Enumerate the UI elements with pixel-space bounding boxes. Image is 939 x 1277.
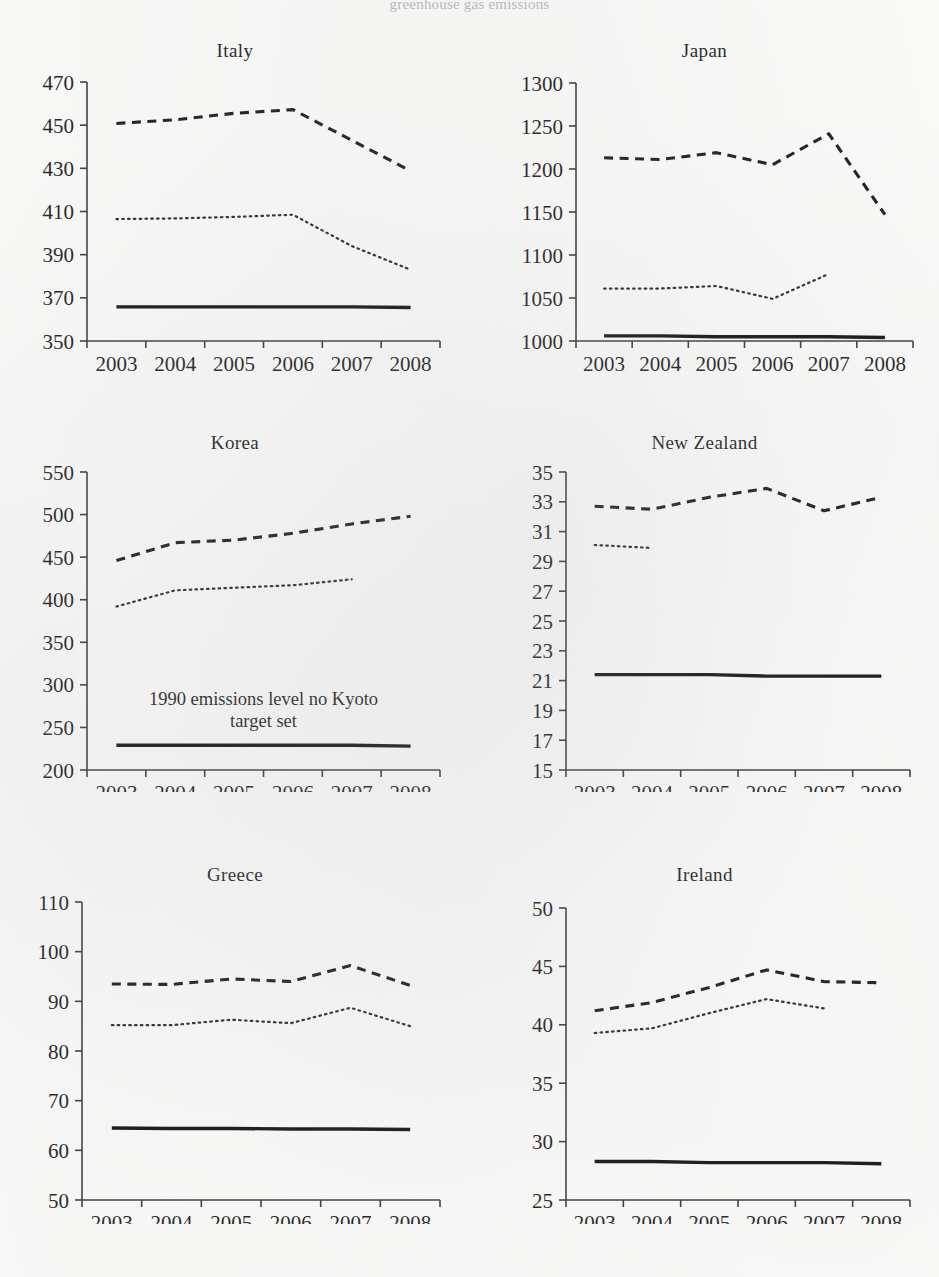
y-tick-label: 90 (48, 990, 69, 1014)
x-tick-label: 2008 (389, 1211, 431, 1224)
y-tick-label: 470 (43, 71, 75, 95)
x-tick-label: 2003 (91, 1211, 133, 1224)
series-solid-baseline (116, 307, 410, 308)
x-tick-label: 2003 (95, 781, 137, 792)
x-tick-label: 2007 (808, 352, 850, 376)
chart-panel-new-zealand: New Zealand15171921232527293133352003200… (470, 420, 939, 792)
series-solid-baseline (112, 1128, 410, 1129)
y-tick-label: 19 (532, 699, 553, 723)
y-tick-label: 50 (532, 897, 553, 921)
y-tick-label: 410 (43, 200, 75, 224)
series-dashed-line (112, 966, 410, 986)
plot-area: 3503703904104304504702003200420052006200… (0, 28, 470, 400)
x-tick-label: 2008 (864, 352, 906, 376)
series-dotted-line (604, 274, 829, 299)
y-tick-label: 1200 (521, 158, 563, 182)
plot-area: 1000105011001150120012501300200320042005… (470, 28, 939, 400)
y-tick-label: 250 (43, 716, 75, 740)
y-tick-label: 1300 (521, 72, 563, 96)
y-tick-label: 21 (532, 669, 553, 693)
y-tick-label: 80 (48, 1040, 69, 1064)
y-tick-label: 1150 (522, 201, 563, 225)
x-tick-label: 2006 (272, 352, 314, 376)
chart-panel-japan: Japan10001050110011501200125013002003200… (470, 28, 939, 400)
x-tick-label: 2007 (330, 1211, 372, 1224)
y-tick-label: 450 (43, 114, 75, 138)
x-tick-label: 2004 (639, 352, 682, 376)
x-tick-label: 2003 (95, 352, 137, 376)
plot-area: 2002503003504004505005502003200420052006… (0, 420, 470, 792)
y-tick-label: 1250 (521, 115, 563, 139)
y-tick-label: 29 (532, 550, 553, 574)
chart-panel-greece: Greece5060708090100110200320042005200620… (0, 852, 470, 1224)
series-solid-baseline (604, 336, 885, 338)
x-tick-label: 2005 (688, 781, 730, 792)
chart-panel-italy: Italy35037039041043045047020032004200520… (0, 28, 470, 400)
y-tick-label: 25 (532, 610, 553, 634)
plot-area: 5060708090100110200320042005200620072008 (0, 852, 470, 1224)
x-tick-label: 2006 (270, 1211, 312, 1224)
x-tick-label: 2004 (631, 1211, 674, 1224)
series-solid-baseline (116, 745, 410, 746)
x-tick-label: 2007 (803, 1211, 845, 1224)
y-tick-label: 31 (532, 520, 553, 544)
x-tick-label: 2007 (331, 781, 373, 792)
x-tick-label: 2004 (154, 352, 197, 376)
baseline-annotation: target set (230, 711, 298, 731)
series-dashed-line (595, 488, 882, 510)
x-tick-label: 2006 (746, 1211, 788, 1224)
x-tick-label: 2003 (583, 352, 625, 376)
series-solid-baseline (595, 1161, 882, 1163)
y-tick-label: 17 (532, 729, 553, 753)
plot-area: 253035404550200320042005200620072008 (470, 852, 939, 1224)
x-tick-label: 2006 (752, 352, 794, 376)
y-tick-label: 450 (43, 546, 75, 570)
y-tick-label: 45 (532, 955, 553, 979)
y-tick-label: 1100 (522, 244, 563, 268)
y-tick-label: 300 (43, 673, 75, 697)
series-dashed-line (595, 970, 882, 1011)
y-tick-label: 33 (532, 490, 553, 514)
x-tick-label: 2003 (574, 781, 616, 792)
y-tick-label: 550 (43, 461, 75, 485)
y-tick-label: 23 (532, 639, 553, 663)
y-tick-label: 50 (48, 1189, 69, 1213)
y-tick-label: 200 (43, 759, 75, 783)
series-dotted-line (595, 999, 824, 1033)
series-dotted-line (116, 215, 410, 270)
y-tick-label: 390 (43, 243, 75, 267)
y-tick-label: 70 (48, 1089, 69, 1113)
x-tick-label: 2007 (331, 352, 373, 376)
x-tick-label: 2006 (746, 781, 788, 792)
y-tick-label: 35 (532, 461, 553, 485)
x-tick-label: 2004 (631, 781, 674, 792)
x-tick-label: 2008 (860, 1211, 902, 1224)
x-tick-label: 2008 (860, 781, 902, 792)
chart-panel-ireland: Ireland253035404550200320042005200620072… (470, 852, 939, 1224)
y-tick-label: 430 (43, 157, 75, 181)
x-tick-label: 2004 (151, 1211, 194, 1224)
y-tick-label: 27 (532, 580, 553, 604)
x-tick-label: 2008 (390, 352, 432, 376)
y-tick-label: 25 (532, 1189, 553, 1213)
x-tick-label: 2005 (695, 352, 737, 376)
series-dashed-line (604, 134, 885, 215)
series-dotted-line (116, 579, 351, 606)
y-tick-label: 15 (532, 759, 553, 783)
series-dashed-line (116, 110, 410, 171)
y-tick-label: 1050 (521, 287, 563, 311)
series-dotted-line (112, 1008, 410, 1026)
y-tick-label: 60 (48, 1139, 69, 1163)
x-tick-label: 2003 (574, 1211, 616, 1224)
y-tick-label: 350 (43, 631, 75, 655)
y-tick-label: 500 (43, 503, 75, 527)
y-tick-label: 110 (38, 891, 69, 915)
x-tick-label: 2007 (803, 781, 845, 792)
series-solid-baseline (595, 675, 882, 676)
x-tick-label: 2008 (390, 781, 432, 792)
x-tick-label: 2005 (213, 781, 255, 792)
baseline-annotation: 1990 emissions level no Kyoto (149, 689, 378, 709)
x-tick-label: 2005 (210, 1211, 252, 1224)
y-tick-label: 400 (43, 588, 75, 612)
series-dotted-line (595, 545, 652, 548)
